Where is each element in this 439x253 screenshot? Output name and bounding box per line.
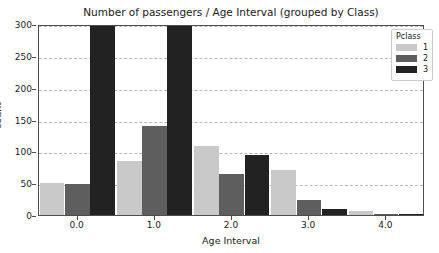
legend-title: Pclass [396,33,428,41]
x-tick-label: 2.0 [211,220,251,230]
legend-label: 3 [423,66,428,74]
legend-entry: 3 [396,65,428,74]
x-tick-mark [77,216,78,220]
x-tick-label: 3.0 [288,220,328,230]
bar [399,214,424,215]
bar [322,209,347,215]
chart-figure: Number of passengers / Age Interval (gro… [0,0,439,253]
chart-legend: Pclass 123 [391,29,433,81]
x-tick-label: 1.0 [134,220,174,230]
x-tick-mark [154,216,155,220]
bar [194,146,219,215]
legend-label: 1 [423,44,428,52]
y-axis-label: count [0,102,3,129]
y-tick-label: 50 [4,180,32,189]
bar [271,170,296,215]
bar [90,25,115,215]
bar [245,155,270,215]
y-tick-label: 250 [4,52,32,61]
y-tick-label: 150 [4,116,32,125]
plot-area [38,25,424,216]
y-tick-label: 300 [4,21,32,30]
bar [349,211,374,215]
y-tick-mark [32,152,36,153]
x-tick-mark [308,216,309,220]
x-tick-mark [385,216,386,220]
bar [117,161,142,215]
y-tick-mark [32,25,36,26]
y-tick-mark [32,89,36,90]
legend-swatch [396,44,417,51]
y-tick-mark [32,216,36,217]
bar [167,25,192,215]
x-tick-label: 0.0 [57,220,97,230]
bar [65,184,90,215]
y-tick-label: 200 [4,84,32,93]
bar [219,174,244,215]
bar [374,214,399,215]
bar [297,200,322,215]
x-tick-mark [231,216,232,220]
y-tick-mark [32,184,36,185]
chart-title: Number of passengers / Age Interval (gro… [38,6,424,18]
bar [40,183,65,215]
legend-entries: 123 [396,43,428,74]
y-tick-mark [32,121,36,122]
legend-entry: 2 [396,54,428,63]
legend-swatch [396,66,417,73]
x-tick-label: 4.0 [365,220,405,230]
y-tick-label: 0 [4,212,32,221]
legend-entry: 1 [396,43,428,52]
y-tick-mark [32,57,36,58]
bar [142,126,167,215]
y-tick-label: 100 [4,148,32,157]
x-axis-label: Age Interval [38,235,424,246]
legend-label: 2 [423,55,428,63]
legend-swatch [396,55,417,62]
